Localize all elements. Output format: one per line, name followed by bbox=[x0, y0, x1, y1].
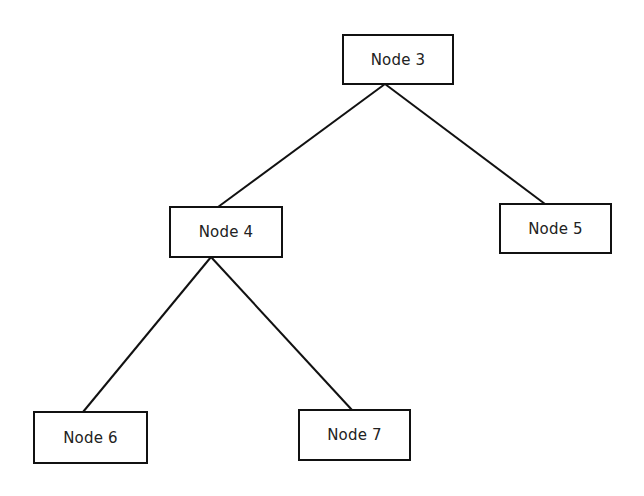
node-6-box: Node 6 bbox=[33, 411, 148, 464]
node-5-label: Node 5 bbox=[528, 220, 583, 238]
node-7-label: Node 7 bbox=[327, 426, 382, 444]
edge-node4-node7 bbox=[211, 257, 352, 410]
node-3-box: Node 3 bbox=[342, 34, 454, 85]
edge-node3-node5 bbox=[385, 84, 545, 204]
node-5-box: Node 5 bbox=[499, 203, 612, 254]
node-4-label: Node 4 bbox=[199, 223, 254, 241]
node-6-label: Node 6 bbox=[63, 429, 118, 447]
node-4-box: Node 4 bbox=[169, 206, 283, 258]
node-3-label: Node 3 bbox=[371, 51, 426, 69]
node-7-box: Node 7 bbox=[298, 409, 411, 461]
edge-node3-node4 bbox=[218, 84, 385, 207]
edge-node4-node6 bbox=[83, 257, 211, 412]
